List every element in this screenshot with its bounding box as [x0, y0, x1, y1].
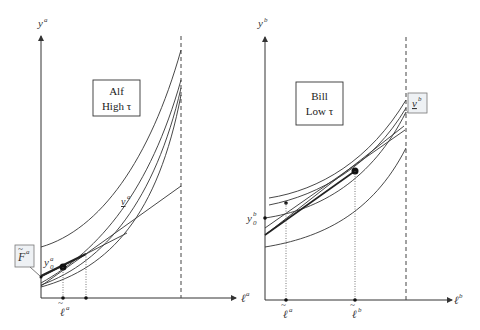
right-tick2-sup: b: [358, 306, 362, 314]
right-tick1-sup: a: [289, 306, 293, 314]
v-callout-label: v: [412, 97, 417, 109]
diagram-canvas: Alf High τ F a ~ y a 0 v a y a ℓ a ~ ℓ a: [0, 0, 480, 330]
left-y-axis-label: y: [37, 17, 43, 29]
right-tick1-label: ℓ: [283, 308, 288, 320]
left-curve-label: v: [121, 196, 126, 207]
left-tick-sup: a: [66, 304, 70, 312]
f-tilde: ~: [18, 244, 23, 254]
left-panel: Alf High τ F a ~ y a 0 v a y a ℓ a ~ ℓ a: [15, 16, 250, 318]
left-tick-label: ℓ: [60, 306, 65, 318]
left-curve-bottom: [41, 95, 181, 287]
alf-tau: High τ: [102, 100, 132, 112]
right-x-axis-sup: b: [459, 292, 463, 300]
right-curve-bottom: [265, 148, 406, 247]
f-callout-sup: a: [26, 248, 30, 256]
left-tick-dot-2: [84, 296, 88, 300]
left-curve-sup: a: [127, 193, 131, 201]
bill-label-box: [296, 82, 343, 125]
left-curve-3: [41, 88, 181, 285]
right-y-axis-sup: b: [264, 16, 268, 24]
left-intercept-sup: a: [50, 255, 54, 263]
left-budget-line: [41, 186, 181, 286]
right-intercept-sup: b: [253, 210, 257, 218]
v-callout-sup: b: [418, 95, 422, 103]
right-intercept-point: [263, 216, 267, 220]
alf-name: Alf: [109, 85, 124, 97]
right-y-axis-label: y: [257, 17, 263, 29]
left-intercept-sub: 0: [50, 263, 54, 271]
left-intercept-label: y: [43, 256, 49, 268]
bill-tau: Low τ: [306, 105, 334, 117]
bill-name: Bill: [311, 90, 328, 102]
right-intercept-label: y: [246, 212, 252, 224]
left-x-axis-sup: a: [246, 290, 250, 298]
right-intercept-sub: 0: [253, 219, 257, 227]
left-y-axis-sup: a: [44, 16, 48, 24]
right-panel: Bill Low τ v b y b 0 y b ℓ b ~ ℓ a ~ ℓ b: [246, 16, 463, 320]
right-tick2-label: ℓ: [352, 308, 357, 320]
f-callout-pointer: [30, 267, 40, 276]
